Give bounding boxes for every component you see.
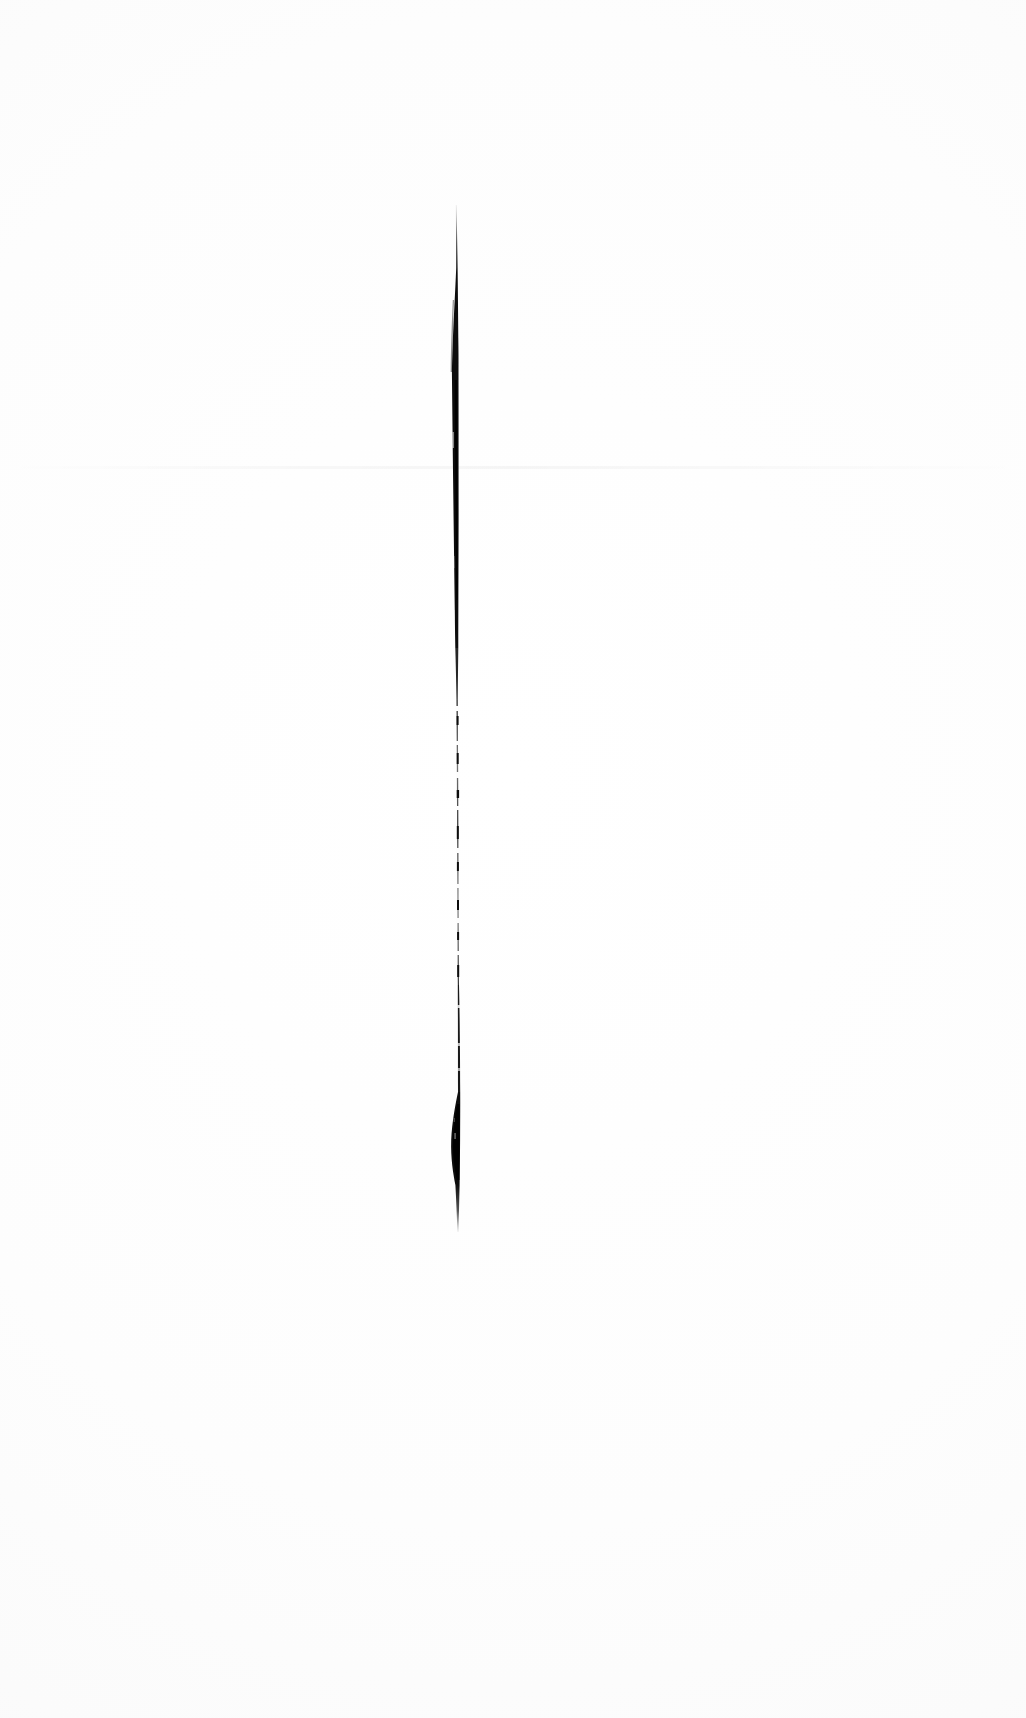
stroke-segment-top-hairline-taper — [456, 205, 458, 268]
stroke-segment-upper-swell — [451, 268, 459, 372]
stroke-segment-recovery — [457, 985, 461, 1092]
stroke-segment-lower-blot — [451, 1092, 460, 1185]
stroke-segment-dense-body — [452, 372, 459, 648]
artwork-page: A single vertical ink brush stroke on wh… — [0, 0, 1026, 1718]
ink-stroke-artwork — [0, 0, 1026, 1718]
stroke-segment-thinning-run — [455, 648, 458, 700]
stroke-segment-broken-dry-brush — [456, 700, 461, 985]
stroke-segment-bottom-taper — [455, 1185, 459, 1232]
